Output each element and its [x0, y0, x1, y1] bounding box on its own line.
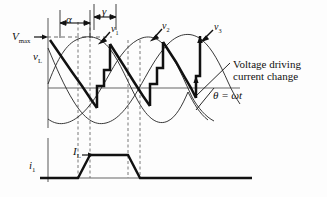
alpha-span-marker	[60, 10, 90, 38]
current-waveform-i1	[40, 155, 252, 178]
il-subscript: L	[77, 152, 81, 159]
il-label: IL	[73, 146, 81, 160]
i1-subscript: 1	[32, 166, 35, 173]
output-voltage-trace	[50, 36, 200, 108]
gamma-label: γ	[102, 6, 106, 17]
v2-label: v2	[162, 21, 170, 33]
sine-v2-tail	[192, 97, 214, 121]
theta-axis-label: θ = ωt	[213, 90, 242, 101]
commutation-annotation: Voltage driving current change	[233, 58, 301, 83]
annotation-line-2: current change	[233, 70, 301, 82]
alpha-label: α	[66, 14, 72, 25]
vmax-arrow	[34, 35, 48, 40]
vl-segment-2	[110, 44, 150, 106]
vl-label: vL	[33, 51, 42, 65]
v3-subscript: 3	[218, 27, 221, 34]
il-arrow	[82, 153, 94, 158]
v3-label: v3	[214, 22, 222, 34]
waveform-figure: Vmax vL α γ v1 v2 v3 Voltage driving cur…	[0, 0, 327, 197]
theta-axis-marker	[196, 88, 214, 110]
v1-label: v1	[111, 24, 119, 36]
i1-label: i1	[29, 160, 35, 174]
vl-notch-3	[196, 36, 200, 98]
vl-segment-3	[163, 42, 196, 98]
annotation-line-1: Voltage driving	[233, 58, 301, 70]
v1-subscript: 1	[115, 29, 118, 36]
vmax-label: Vmax	[12, 31, 30, 45]
v2-subscript: 2	[166, 26, 169, 33]
vl-subscript: L	[38, 57, 42, 64]
vmax-subscript: max	[19, 37, 31, 44]
sine-v2	[48, 37, 192, 124]
